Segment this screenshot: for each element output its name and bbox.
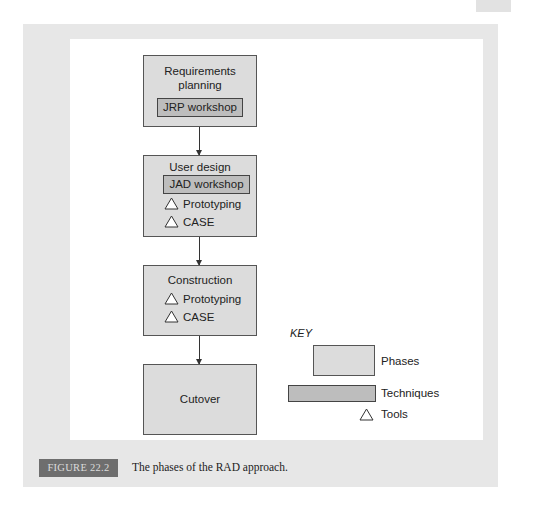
figure-number-badge: FIGURE 22.2 <box>39 459 118 477</box>
technique-jrp-workshop: JRP workshop <box>157 98 243 117</box>
diagram-canvas <box>70 39 483 440</box>
tool-label: CASE <box>183 216 214 228</box>
key-tools-label: Tools <box>381 408 408 420</box>
tool-prototyping: Prototyping <box>164 292 241 305</box>
flow-arrow <box>199 336 200 364</box>
triangle-icon <box>164 197 179 210</box>
key-phase-swatch <box>313 345 375 376</box>
tool-prototyping: Prototyping <box>164 197 241 210</box>
phase-title: planning <box>144 78 256 92</box>
key-title: KEY <box>290 327 312 339</box>
key-phases-label: Phases <box>381 355 419 367</box>
tool-case: CASE <box>164 215 214 228</box>
triangle-icon <box>164 292 179 305</box>
phase-cutover: Cutover <box>143 364 257 435</box>
flow-arrow <box>199 127 200 155</box>
key-technique-swatch <box>288 385 376 402</box>
phase-title: Requirements <box>144 64 256 78</box>
page-corner-tab <box>476 0 511 12</box>
technique-jad-workshop: JAD workshop <box>163 175 250 194</box>
phase-title: User design <box>144 160 256 174</box>
phase-title: Cutover <box>144 392 256 406</box>
key-techniques-label: Techniques <box>381 387 439 399</box>
tool-case: CASE <box>164 310 214 323</box>
triangle-icon <box>164 215 179 228</box>
flow-arrow <box>199 237 200 265</box>
phase-title: Construction <box>144 273 256 287</box>
tool-label: Prototyping <box>183 293 241 305</box>
tool-label: Prototyping <box>183 198 241 210</box>
tool-label: CASE <box>183 311 214 323</box>
figure-caption: The phases of the RAD approach. <box>132 461 288 473</box>
triangle-icon <box>359 408 374 421</box>
triangle-icon <box>164 310 179 323</box>
